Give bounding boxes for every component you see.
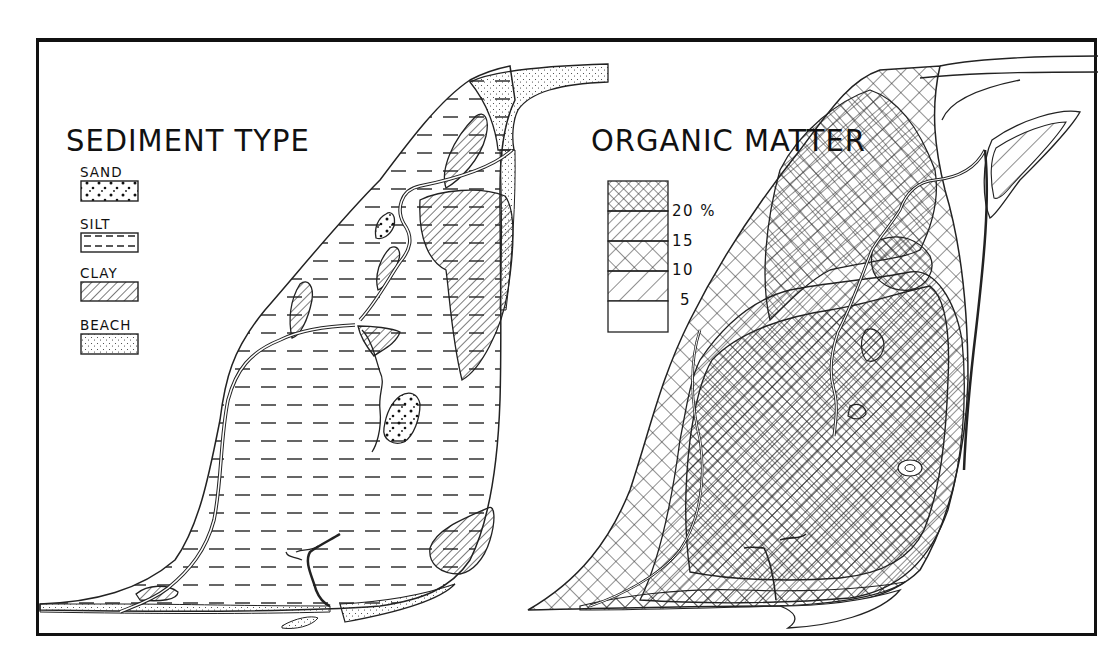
legend-label-silt: SILT — [80, 216, 110, 232]
map-canvas — [0, 0, 1119, 668]
om-spit — [920, 56, 1098, 120]
om-legend-swatch-10-15 — [608, 241, 668, 271]
om-legend-swatch-under-5 — [608, 301, 668, 332]
legend-swatch-clay — [81, 282, 138, 301]
om-break-5: 5 — [680, 291, 691, 309]
om-break-20: 20 % — [672, 202, 716, 220]
legend-label-clay: CLAY — [80, 265, 118, 281]
legend-label-sand: SAND — [80, 164, 123, 180]
organic-matter-legend — [608, 181, 668, 332]
legend-swatch-beach — [81, 334, 138, 354]
beach-islet — [282, 617, 318, 629]
om-island-2 — [848, 404, 866, 418]
sediment-title: SEDIMENT TYPE — [66, 122, 310, 158]
om-legend-swatch-over-20 — [608, 181, 668, 211]
figure: SEDIMENT TYPE ORGANIC MATTER SAND SILT C… — [0, 0, 1119, 668]
om-east-channel — [964, 150, 987, 470]
om-legend-swatch-15-20 — [608, 211, 668, 241]
om-break-15: 15 — [672, 232, 694, 250]
om-break-10: 10 — [672, 261, 694, 279]
om-legend-swatch-5-10 — [608, 271, 668, 301]
organic-matter-title: ORGANIC MATTER — [591, 122, 866, 158]
legend-label-beach: BEACH — [80, 317, 131, 333]
beach-strip-bottom — [40, 604, 330, 614]
legend-swatch-sand — [81, 181, 138, 201]
